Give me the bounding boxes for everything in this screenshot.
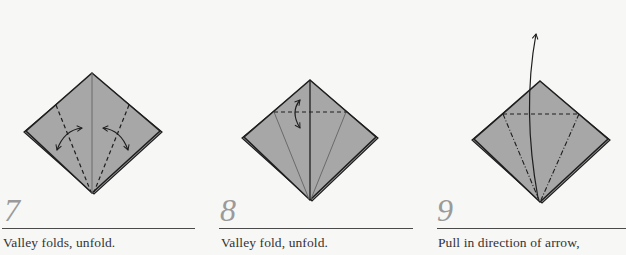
step-8-diagram: [242, 80, 378, 201]
step-9-diagram: [472, 34, 610, 203]
divider-rule: [219, 228, 413, 229]
step-7-diagram: [24, 73, 162, 194]
origami-instructions-page: 7 Valley folds, unfold. 8 Valley fold, u…: [0, 0, 626, 255]
step-caption-9: Pull in direction of arrow,: [438, 235, 580, 251]
origami-diagrams: [0, 0, 626, 255]
step-caption-7: Valley folds, unfold.: [3, 235, 115, 251]
step-number-9: 9: [437, 196, 453, 224]
divider-rule: [437, 228, 626, 229]
step-number-7: 7: [4, 196, 20, 224]
divider-rule: [2, 228, 195, 229]
step-caption-8: Valley fold, unfold.: [221, 235, 328, 251]
step-number-8: 8: [220, 196, 236, 224]
